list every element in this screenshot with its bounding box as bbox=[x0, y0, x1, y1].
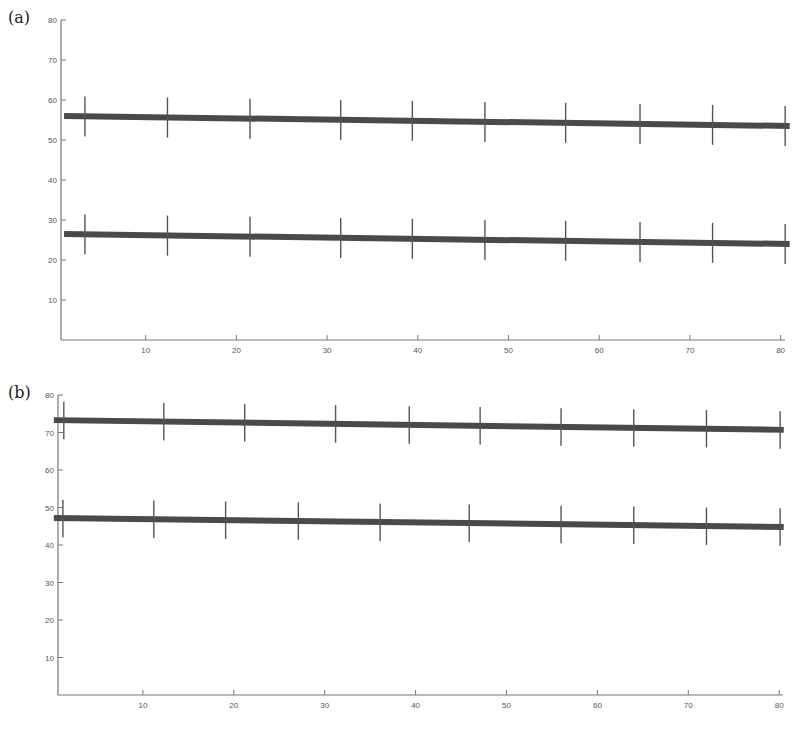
x-tick-label: 20 bbox=[229, 701, 238, 710]
x-tick-label: 80 bbox=[775, 701, 784, 710]
y-tick-label: 30 bbox=[45, 579, 54, 588]
y-tick-label: 80 bbox=[45, 391, 54, 400]
y-tick-label: 50 bbox=[45, 504, 54, 513]
series-line-lower bbox=[54, 518, 784, 527]
chart-panel-b: 10203040506070801020304050607080 bbox=[0, 0, 807, 736]
x-tick-label: 10 bbox=[138, 701, 147, 710]
y-tick-label: 20 bbox=[45, 616, 54, 625]
y-tick-label: 40 bbox=[45, 541, 54, 550]
x-tick-label: 70 bbox=[684, 701, 693, 710]
y-tick-label: 70 bbox=[45, 429, 54, 438]
x-tick-label: 60 bbox=[593, 701, 602, 710]
y-tick-label: 10 bbox=[45, 654, 54, 663]
y-tick-label: 60 bbox=[45, 466, 54, 475]
x-tick-label: 50 bbox=[502, 701, 511, 710]
x-tick-label: 30 bbox=[320, 701, 329, 710]
x-tick-label: 40 bbox=[411, 701, 420, 710]
